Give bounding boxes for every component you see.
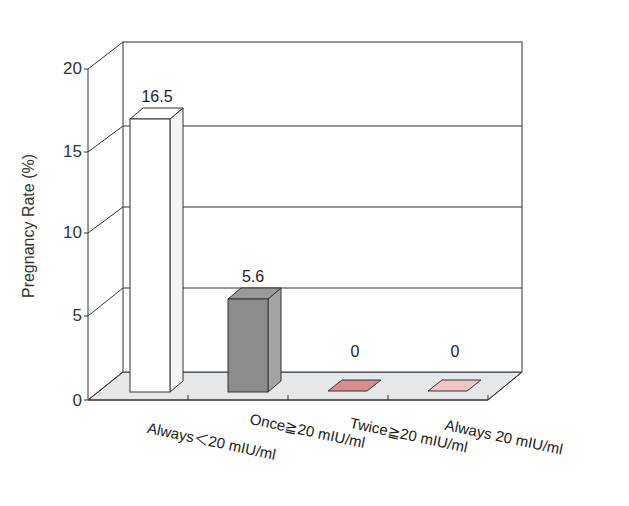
value-label-bar3: 0 bbox=[330, 343, 380, 361]
y-axis-ticks bbox=[84, 69, 88, 400]
y-tick-5: 5 bbox=[52, 306, 82, 326]
y-tick-10: 10 bbox=[52, 223, 82, 243]
left-wall bbox=[88, 42, 123, 400]
y-tick-20: 20 bbox=[52, 59, 82, 79]
y-axis-title: Pregnancy Rate (%) bbox=[20, 126, 38, 326]
y-tick-15: 15 bbox=[52, 142, 82, 162]
bar-once-ge-20 bbox=[228, 288, 281, 392]
value-label-bar4: 0 bbox=[430, 343, 480, 361]
value-label-bar2: 5.6 bbox=[228, 268, 278, 286]
bar-always-lt-20 bbox=[130, 108, 183, 392]
value-label-bar1: 16.5 bbox=[132, 88, 182, 106]
y-tick-0: 0 bbox=[52, 391, 82, 411]
